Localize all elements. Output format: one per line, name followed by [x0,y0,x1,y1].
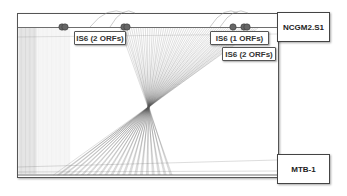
synteny-viewer: NCGM2.S1 MTB-1 IS6 (2 ORFs) IS6 (1 ORFs)… [0,0,347,196]
genome-label-bottom[interactable]: MTB-1 [277,154,330,184]
genome-label-top[interactable]: NCGM2.S1 [277,12,330,42]
is-element-marker[interactable] [62,24,68,30]
is-element-marker[interactable] [230,24,236,30]
is-element-marker[interactable] [124,24,130,30]
annotation-label[interactable]: IS6 (2 ORFs) [222,47,276,61]
is-element-marker[interactable] [244,24,250,30]
genome-name-bottom: MTB-1 [291,165,315,174]
annotation-label[interactable]: IS6 (2 ORFs) [74,31,126,45]
annotation-label[interactable]: IS6 (1 ORFs) [210,31,269,45]
genome-name-top: NCGM2.S1 [283,23,324,32]
